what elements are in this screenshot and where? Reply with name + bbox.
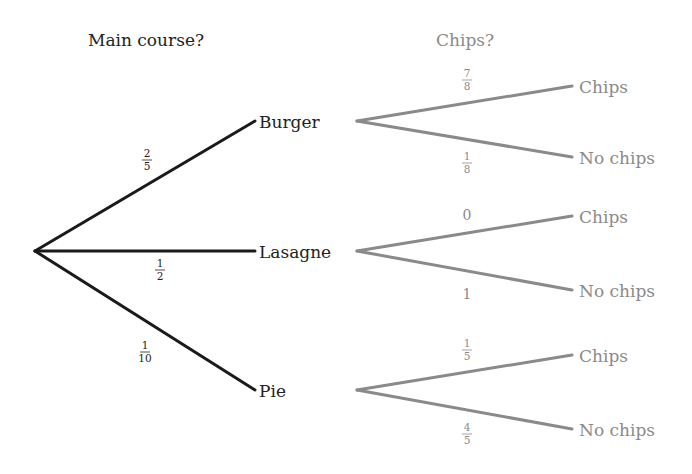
prob-burger-no-chips-denominator: 8 [464, 163, 471, 175]
heading-chips: Chips? [436, 30, 494, 50]
node-burger: Burger [259, 112, 321, 132]
prob-pie-no-chips-denominator: 5 [464, 434, 471, 446]
node-lasagne-no-chips: No chips [579, 281, 655, 301]
node-burger-chips: Chips [579, 77, 628, 97]
prob-lasagne-no-chips: 1 [463, 286, 472, 302]
probability-tree-diagram: Main course? Chips? Burger25Lasagne12Pie… [0, 0, 692, 474]
branch-pie [35, 251, 255, 390]
node-lasagne-chips: Chips [579, 207, 628, 227]
prob-burger-no-chips-numerator: 1 [464, 150, 471, 162]
prob-pie-chips-denominator: 5 [464, 350, 471, 362]
prob-pie-chips-numerator: 1 [464, 337, 471, 349]
prob-burger-chips-numerator: 7 [464, 67, 471, 79]
node-burger-no-chips: No chips [579, 148, 655, 168]
tree-canvas: Main course? Chips? Burger25Lasagne12Pie… [0, 0, 692, 474]
prob-lasagne-numerator: 1 [157, 257, 164, 269]
prob-burger-denominator: 5 [144, 160, 151, 172]
prob-burger-chips-denominator: 8 [464, 80, 471, 92]
node-pie: Pie [259, 381, 286, 401]
prob-lasagne-chips: 0 [463, 207, 472, 223]
prob-pie-denominator: 10 [138, 352, 151, 364]
branch-lasagne-no-chips [357, 251, 572, 290]
node-pie-chips: Chips [579, 346, 628, 366]
branch-burger [35, 121, 255, 251]
prob-lasagne-denominator: 2 [157, 270, 164, 282]
node-lasagne: Lasagne [259, 242, 331, 262]
heading-main-course: Main course? [88, 30, 204, 50]
prob-pie-numerator: 1 [142, 339, 149, 351]
prob-burger-numerator: 2 [144, 147, 151, 159]
node-pie-no-chips: No chips [579, 420, 655, 440]
prob-pie-no-chips-numerator: 4 [464, 421, 471, 433]
